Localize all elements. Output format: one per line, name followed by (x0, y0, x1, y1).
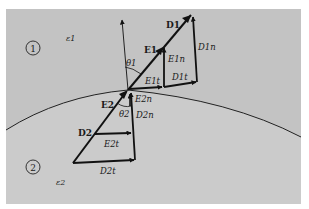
epsilon-2-label: ε2 (56, 178, 65, 187)
region-2-number: 2 (30, 163, 36, 173)
label-theta2: θ2 (119, 109, 130, 119)
label-e1n: E1n (167, 54, 185, 64)
label-e1: E1 (144, 45, 157, 55)
label-d2n: D2n (135, 110, 154, 120)
region-1-number: 1 (30, 44, 36, 54)
label-e1t: E1t (144, 76, 161, 86)
vector-e2t (95, 133, 131, 134)
label-e2t: E2t (103, 139, 120, 149)
label-d2: D2 (78, 128, 92, 138)
label-theta1: θ1 (126, 58, 137, 68)
dielectric-boundary-diagram: 1 2 ε1 ε2 D1 E1 E1n D1n E1t D1t θ1 E2 D2… (0, 0, 309, 209)
epsilon-1-label: ε1 (66, 34, 75, 43)
label-e2n: E2n (134, 94, 152, 104)
label-e2: E2 (101, 100, 114, 110)
label-d1t: D1t (171, 72, 188, 82)
label-d2t: D2t (99, 166, 116, 176)
label-d1: D1 (166, 20, 180, 30)
label-d1n: D1n (197, 42, 216, 52)
